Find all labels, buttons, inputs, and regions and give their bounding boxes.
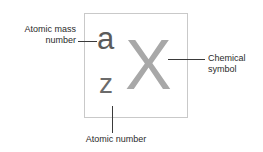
chemical-symbol-glyph: X [125, 30, 172, 100]
leader-line-mass-number [78, 41, 97, 42]
symbol-box: a z X [84, 13, 188, 118]
leader-line-atomic-number [112, 106, 113, 133]
leader-line-chemical-symbol [168, 59, 205, 60]
nuclide-symbol-diagram: a z X Atomic mass number Chemical symbol… [0, 0, 263, 152]
callout-label-mass-number: Atomic mass number [0, 24, 76, 46]
callout-label-atomic-number: Atomic number [60, 134, 172, 145]
mass-number-glyph: a [97, 23, 114, 54]
callout-label-chemical-symbol: Chemical symbol [208, 53, 263, 75]
atomic-number-glyph: z [99, 70, 113, 98]
